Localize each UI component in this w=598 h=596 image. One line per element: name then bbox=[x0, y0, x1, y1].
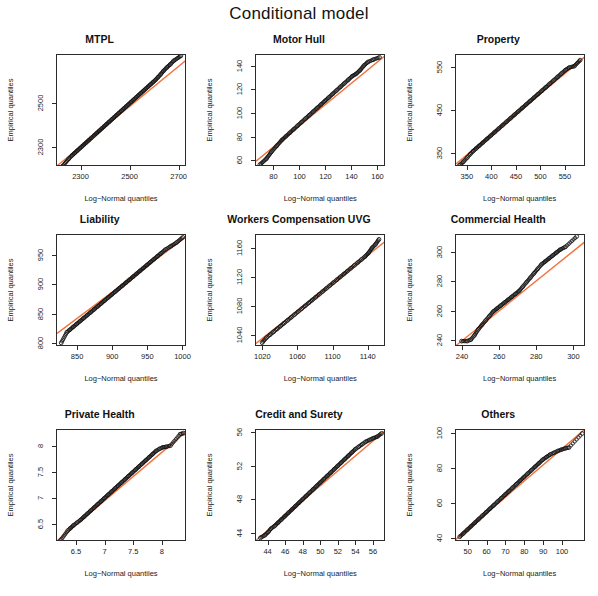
plot-area bbox=[56, 429, 186, 541]
qq-panel: Motor HullEmpirical quantilesLog−Normal … bbox=[199, 33, 398, 213]
x-tick-label: 950 bbox=[127, 352, 167, 361]
x-tick-label: 8 bbox=[142, 547, 182, 556]
y-tick-mark bbox=[52, 446, 56, 447]
y-tick-label: 100 bbox=[234, 102, 246, 124]
x-tick-mark bbox=[543, 541, 544, 545]
y-tick-label: 140 bbox=[234, 55, 246, 77]
x-tick-mark bbox=[524, 541, 525, 545]
y-axis-label: Empirical quantiles bbox=[4, 234, 18, 346]
qq-panel: LiabilityEmpirical quantilesLog−Normal q… bbox=[0, 213, 199, 393]
y-tick-mark bbox=[251, 432, 255, 433]
x-tick-mark bbox=[468, 541, 469, 545]
y-axis-label: Empirical quantiles bbox=[403, 234, 417, 346]
x-tick-mark bbox=[112, 346, 113, 350]
x-tick-label: 850 bbox=[57, 352, 97, 361]
y-tick-mark bbox=[451, 433, 455, 434]
y-tick-label: 1080 bbox=[234, 295, 246, 317]
plot-area bbox=[455, 234, 585, 346]
x-axis-label: Log−Normal quantiles bbox=[455, 194, 585, 203]
y-tick-label: 2500 bbox=[35, 92, 47, 114]
y-tick-label: 8 bbox=[35, 435, 47, 457]
x-axis-label-wrap: Log−Normal quantiles bbox=[0, 194, 199, 203]
x-tick-mark bbox=[182, 346, 183, 350]
y-tick-mark bbox=[52, 255, 56, 256]
y-tick-label: 52 bbox=[234, 455, 246, 477]
x-tick-mark bbox=[487, 541, 488, 545]
qq-panel: MTPLEmpirical quantilesLog−Normal quanti… bbox=[0, 33, 199, 213]
y-tick-mark bbox=[251, 113, 255, 114]
x-tick-mark bbox=[273, 166, 274, 170]
y-tick-label: 48 bbox=[234, 488, 246, 510]
qq-panel: Workers Compensation UVGEmpirical quanti… bbox=[199, 213, 398, 393]
y-tick-label: 80 bbox=[234, 126, 246, 148]
x-axis-label: Log−Normal quantiles bbox=[455, 569, 585, 578]
y-tick-mark bbox=[451, 153, 455, 154]
y-tick-label: 300 bbox=[434, 241, 446, 263]
y-tick-mark bbox=[251, 137, 255, 138]
page-title: Conditional model bbox=[0, 4, 598, 24]
y-tick-label: 260 bbox=[434, 300, 446, 322]
panel-title: Others bbox=[399, 408, 598, 420]
x-tick-label: 900 bbox=[92, 352, 132, 361]
y-tick-mark bbox=[52, 284, 56, 285]
x-tick-mark bbox=[179, 166, 180, 170]
x-tick-label: 1000 bbox=[162, 352, 202, 361]
x-axis-label-wrap: Log−Normal quantiles bbox=[199, 194, 398, 203]
y-tick-label: 40 bbox=[434, 527, 446, 549]
y-tick-mark bbox=[52, 147, 56, 148]
x-tick-mark bbox=[325, 166, 326, 170]
x-tick-label: 1020 bbox=[242, 352, 282, 361]
x-tick-mark bbox=[320, 541, 321, 545]
y-axis-label: Empirical quantiles bbox=[203, 54, 217, 166]
y-tick-label: 60 bbox=[234, 149, 246, 171]
x-tick-mark bbox=[303, 541, 304, 545]
y-tick-mark bbox=[451, 281, 455, 282]
y-tick-mark bbox=[52, 498, 56, 499]
x-tick-mark bbox=[540, 166, 541, 170]
data-points bbox=[261, 237, 382, 344]
x-tick-mark bbox=[162, 541, 163, 545]
y-tick-mark bbox=[451, 340, 455, 341]
x-tick-label: 2300 bbox=[61, 172, 101, 181]
y-tick-mark bbox=[251, 335, 255, 336]
y-axis-label: Empirical quantiles bbox=[403, 54, 417, 166]
y-tick-mark bbox=[451, 67, 455, 68]
x-tick-mark bbox=[462, 346, 463, 350]
x-tick-mark bbox=[262, 346, 263, 350]
plot-area bbox=[255, 234, 385, 346]
x-tick-label: 2500 bbox=[110, 172, 150, 181]
panel-title: Commercial Health bbox=[399, 213, 598, 225]
x-tick-mark bbox=[377, 166, 378, 170]
x-tick-label: 280 bbox=[516, 352, 556, 361]
x-tick-label: 260 bbox=[479, 352, 519, 361]
y-tick-mark bbox=[251, 466, 255, 467]
plot-area bbox=[455, 429, 585, 541]
x-tick-mark bbox=[565, 166, 566, 170]
x-tick-mark bbox=[467, 166, 468, 170]
x-tick-mark bbox=[77, 346, 78, 350]
y-tick-mark bbox=[251, 66, 255, 67]
x-tick-mark bbox=[573, 346, 574, 350]
x-tick-label: 1060 bbox=[277, 352, 317, 361]
panel-title: Motor Hull bbox=[199, 33, 398, 45]
x-tick-mark bbox=[130, 166, 131, 170]
data-points bbox=[258, 55, 381, 166]
panel-title: MTPL bbox=[0, 33, 199, 45]
x-tick-mark bbox=[355, 541, 356, 545]
x-axis-label-wrap: Log−Normal quantiles bbox=[199, 569, 398, 578]
x-tick-mark bbox=[351, 166, 352, 170]
x-axis-label-wrap: Log−Normal quantiles bbox=[399, 374, 598, 383]
panel-title: Property bbox=[399, 33, 598, 45]
qq-panel: OthersEmpirical quantilesLog−Normal quan… bbox=[399, 400, 598, 591]
y-tick-label: 120 bbox=[234, 78, 246, 100]
y-tick-mark bbox=[451, 538, 455, 539]
x-axis-label-wrap: Log−Normal quantiles bbox=[0, 569, 199, 578]
x-tick-mark bbox=[76, 541, 77, 545]
y-tick-label: 60 bbox=[434, 492, 446, 514]
y-tick-label: 1160 bbox=[234, 237, 246, 259]
plot-area bbox=[255, 429, 385, 541]
x-tick-mark bbox=[297, 346, 298, 350]
y-tick-label: 44 bbox=[234, 522, 246, 544]
x-tick-mark bbox=[147, 346, 148, 350]
x-tick-mark bbox=[368, 346, 369, 350]
